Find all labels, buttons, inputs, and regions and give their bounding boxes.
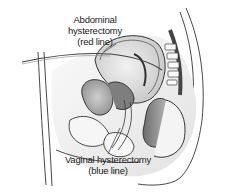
abdominal-hysterectomy-label: Abdominal hysterectomy (red line) bbox=[58, 14, 132, 47]
vaginal-label-line2: (blue line) bbox=[60, 165, 156, 176]
vaginal-label-line1: Vaginal hysterectomy bbox=[60, 154, 156, 165]
abdominal-label-line1: Abdominal bbox=[58, 14, 132, 25]
vaginal-hysterectomy-label: Vaginal hysterectomy (blue line) bbox=[60, 154, 156, 176]
abdominal-label-line3: (red line) bbox=[58, 36, 132, 47]
abdominal-label-line2: hysterectomy bbox=[58, 25, 132, 36]
